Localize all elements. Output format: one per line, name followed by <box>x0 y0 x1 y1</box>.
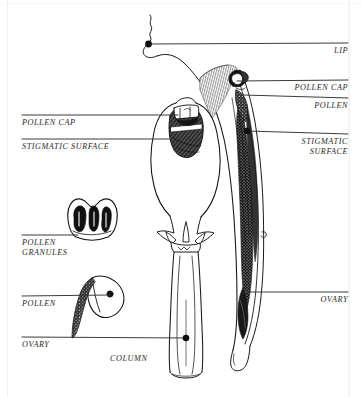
label-stigmatic-surface-right-line2: SURFACE <box>248 147 348 157</box>
label-stigmatic-surface-left: STIGMATIC SURFACE <box>22 142 172 152</box>
leader-pollen-right <box>243 95 348 98</box>
leader-pollen-cap-right <box>237 80 348 81</box>
label-pollen-granules-line2: GRANULES <box>22 248 122 258</box>
leader-dot-column <box>183 335 190 342</box>
leader-lip <box>148 43 348 44</box>
leader-stigmatic-right <box>247 131 348 134</box>
label-ovary-left: OVARY <box>22 340 122 350</box>
label-stigmatic-surface-right-line1: STIGMATIC <box>248 137 348 147</box>
label-pollen-cap-left: POLLEN CAP <box>22 118 162 128</box>
diagram-page: LIP POLLEN CAP POLLEN STIGMATIC SURFACE … <box>0 0 362 397</box>
label-pollen-left: POLLEN <box>22 299 122 309</box>
label-pollen-cap-right: POLLEN CAP <box>248 83 348 93</box>
orchid-anatomy-illustration <box>0 0 362 397</box>
section-pollen-cap <box>229 70 248 89</box>
label-pollen-right: POLLEN <box>248 101 348 111</box>
leader-ovary-left <box>22 337 186 338</box>
lip-tip-shape <box>143 15 206 91</box>
label-column: COLUMN <box>110 354 210 364</box>
label-ovary-right: OVARY <box>248 295 348 305</box>
label-pollen-granules-line1: POLLEN <box>22 238 122 248</box>
leader-dot-stigmatic-right <box>244 128 250 134</box>
inset-pollen-granules <box>68 199 118 240</box>
label-lip: LIP <box>248 46 348 56</box>
leader-dot-lip <box>145 41 152 48</box>
